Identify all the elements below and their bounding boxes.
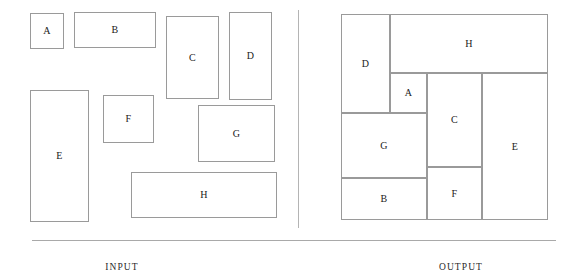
output-caption: OUTPUT bbox=[411, 262, 511, 272]
input-rect-c: C bbox=[166, 16, 219, 99]
input-rect-b: B bbox=[74, 12, 156, 48]
panel-divider bbox=[298, 10, 299, 228]
output-cell-c-label: C bbox=[451, 115, 458, 125]
input-rect-d-label: D bbox=[247, 51, 254, 61]
output-cell-e-label: E bbox=[512, 142, 518, 152]
output-cell-a: A bbox=[390, 73, 427, 113]
input-rect-e: E bbox=[30, 90, 89, 222]
output-cell-f-label: F bbox=[452, 189, 458, 199]
input-rect-f: F bbox=[103, 95, 154, 143]
input-rect-a-label: A bbox=[43, 26, 50, 36]
output-cell-d-label: D bbox=[362, 59, 369, 69]
caption-separator-rule bbox=[32, 240, 556, 241]
output-cell-b: B bbox=[341, 178, 427, 220]
output-cell-h: H bbox=[390, 14, 548, 73]
input-rect-a: A bbox=[30, 13, 64, 49]
output-cell-e: E bbox=[482, 73, 548, 220]
input-caption: INPUT bbox=[72, 262, 172, 272]
output-cell-c: C bbox=[427, 73, 482, 167]
input-rect-g-label: G bbox=[233, 129, 240, 139]
input-rect-d: D bbox=[229, 12, 272, 100]
input-rect-e-label: E bbox=[56, 151, 62, 161]
output-cell-g-label: G bbox=[380, 141, 387, 151]
input-rect-g: G bbox=[198, 105, 275, 162]
input-rect-h-label: H bbox=[200, 190, 207, 200]
packing-figure: A B C D E F G H D H bbox=[0, 0, 576, 275]
output-cell-f: F bbox=[427, 167, 482, 220]
input-rect-h: H bbox=[131, 172, 277, 218]
output-cell-g: G bbox=[341, 113, 427, 178]
output-cell-a-label: A bbox=[405, 88, 412, 98]
input-rect-b-label: B bbox=[112, 25, 119, 35]
output-cell-b-label: B bbox=[381, 194, 388, 204]
input-rect-f-label: F bbox=[126, 114, 132, 124]
input-rect-c-label: C bbox=[189, 53, 196, 63]
output-cell-d: D bbox=[341, 14, 390, 113]
output-cell-h-label: H bbox=[465, 39, 472, 49]
